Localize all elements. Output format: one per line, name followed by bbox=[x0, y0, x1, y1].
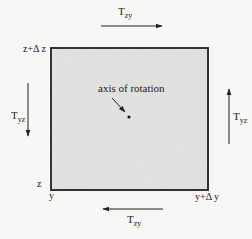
shear-stress-diagram: Tzy Tzy Tyz Tyz z+Δ z z y y+Δ y axis of … bbox=[0, 0, 252, 239]
bottom-force-symbol: T bbox=[127, 213, 134, 225]
top-force-symbol: T bbox=[118, 5, 125, 17]
axis-of-rotation-dot bbox=[127, 115, 130, 118]
bottom-left-y-label: y bbox=[49, 191, 54, 201]
top-force-subscript: zy bbox=[125, 11, 133, 20]
bottom-right-corner-label: y+Δ y bbox=[195, 192, 219, 202]
axis-of-rotation-label: axis of rotation bbox=[98, 83, 165, 94]
top-force-label: Tzy bbox=[118, 6, 132, 20]
diagram-graphics bbox=[0, 0, 252, 239]
top-left-corner-label: z+Δ z bbox=[23, 44, 46, 54]
left-force-label: Tyz bbox=[11, 110, 25, 124]
bottom-force-subscript: zy bbox=[134, 219, 142, 228]
left-force-symbol: T bbox=[11, 109, 18, 121]
left-force-subscript: yz bbox=[18, 115, 26, 124]
right-force-subscript: yz bbox=[240, 116, 248, 125]
bottom-left-z-label: z bbox=[37, 179, 41, 189]
fluid-element bbox=[51, 48, 208, 190]
bottom-force-label: Tzy bbox=[127, 214, 141, 228]
right-force-label: Tyz bbox=[233, 111, 247, 125]
right-force-symbol: T bbox=[233, 110, 240, 122]
